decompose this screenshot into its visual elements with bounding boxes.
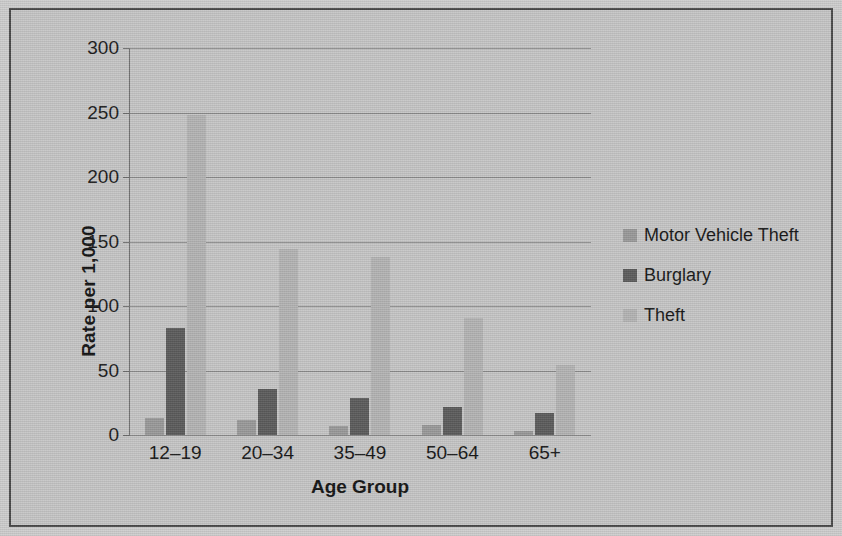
- bar-group: [129, 48, 221, 435]
- y-axis-tick-label: 0: [59, 425, 119, 444]
- gridline: [129, 435, 591, 436]
- x-axis-tick-label: 35–49: [314, 442, 406, 464]
- bar: [350, 398, 369, 435]
- y-axis-tick: [123, 242, 130, 243]
- legend-item: Theft: [623, 306, 833, 324]
- bar: [464, 318, 483, 435]
- x-axis-tick-label: 65+: [499, 442, 591, 464]
- y-axis-tick: [123, 113, 130, 114]
- bar-group: [406, 48, 498, 435]
- y-axis-tick-label: 250: [59, 103, 119, 122]
- bar-group: [314, 48, 406, 435]
- legend-item-label: Burglary: [644, 266, 711, 284]
- legend-item-label: Theft: [644, 306, 685, 324]
- legend-item: Burglary: [623, 266, 833, 284]
- chart-legend: Motor Vehicle TheftBurglaryTheft: [623, 226, 833, 346]
- y-axis-tick-labels: 050100150200250300: [53, 10, 119, 536]
- bar-group: [499, 48, 591, 435]
- bar: [443, 407, 462, 435]
- bar: [329, 426, 348, 435]
- bar: [422, 425, 441, 435]
- bar: [258, 389, 277, 435]
- y-axis-tick-label: 150: [59, 232, 119, 251]
- bar: [145, 418, 164, 435]
- y-axis-tick-label: 50: [59, 361, 119, 380]
- legend-item-label: Motor Vehicle Theft: [644, 226, 799, 244]
- chart-frame: Rate per 1,000 050100150200250300 12–192…: [9, 8, 833, 527]
- y-axis-tick: [123, 435, 130, 436]
- bar: [187, 115, 206, 435]
- bar: [279, 249, 298, 435]
- y-axis-tick-label: 300: [59, 38, 119, 57]
- y-axis-tick-label: 100: [59, 296, 119, 315]
- bar: [535, 413, 554, 435]
- x-axis-title: Age Group: [129, 476, 591, 498]
- x-axis-tick-label: 50–64: [406, 442, 498, 464]
- legend-item: Motor Vehicle Theft: [623, 226, 833, 244]
- plot-area: [129, 48, 591, 435]
- legend-swatch-icon: [623, 269, 637, 282]
- x-axis-tick-label: 12–19: [129, 442, 221, 464]
- bar: [166, 328, 185, 435]
- y-axis-tick: [123, 371, 130, 372]
- legend-swatch-icon: [623, 309, 637, 322]
- bar: [556, 365, 575, 435]
- bar: [237, 420, 256, 435]
- x-axis-tick-label: 20–34: [221, 442, 313, 464]
- y-axis-tick: [123, 306, 130, 307]
- chart-page: Rate per 1,000 050100150200250300 12–192…: [0, 0, 842, 536]
- bar-group: [221, 48, 313, 435]
- bar: [371, 257, 390, 435]
- legend-swatch-icon: [623, 229, 637, 242]
- y-axis-tick: [123, 177, 130, 178]
- y-axis-tick-label: 200: [59, 167, 119, 186]
- bar: [514, 431, 533, 435]
- y-axis-tick: [123, 48, 130, 49]
